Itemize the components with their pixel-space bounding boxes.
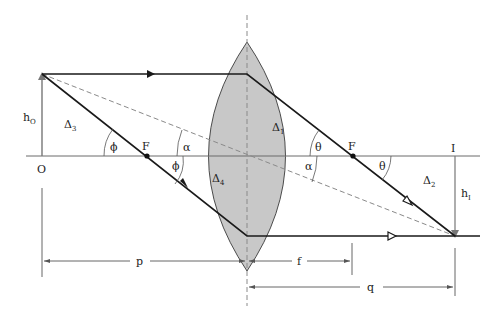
- triangle-3-label: Δ3: [64, 118, 76, 133]
- lens-ray-diagram: O I hO hI F F Δ1 Δ2 Δ3 Δ4 ϕ α ϕ α θ θ p …: [0, 0, 502, 314]
- dimension-q-label: q: [367, 281, 374, 294]
- angle-arc-alpha-left: [177, 130, 182, 156]
- angle-phi-right-label: ϕ: [172, 160, 180, 173]
- angle-arc-alpha-right: [312, 156, 317, 182]
- dimension-p-label: p: [136, 255, 143, 268]
- focal-label-left: F: [142, 140, 150, 153]
- object-height-label: hO: [23, 111, 36, 126]
- object-point-label: O: [37, 163, 46, 176]
- focal-label-right: F: [348, 140, 356, 153]
- angle-phi-left-label: ϕ: [110, 141, 118, 154]
- angle-alpha-left-label: α: [183, 141, 191, 154]
- triangle-2-label: Δ2: [423, 174, 435, 189]
- ray-arrow-icon: [147, 70, 155, 78]
- image-height-label: hI: [461, 187, 471, 202]
- angle-theta-left-label: θ: [315, 141, 322, 154]
- focal-point-left: [144, 153, 149, 158]
- dimension-f-label: f: [297, 255, 302, 268]
- focal-point-right: [350, 153, 355, 158]
- angle-alpha-right-label: α: [305, 160, 313, 173]
- angle-theta-right-label: θ: [379, 160, 386, 173]
- image-point-label: I: [451, 142, 455, 155]
- ray-arrow-hollow-icon: [388, 232, 396, 240]
